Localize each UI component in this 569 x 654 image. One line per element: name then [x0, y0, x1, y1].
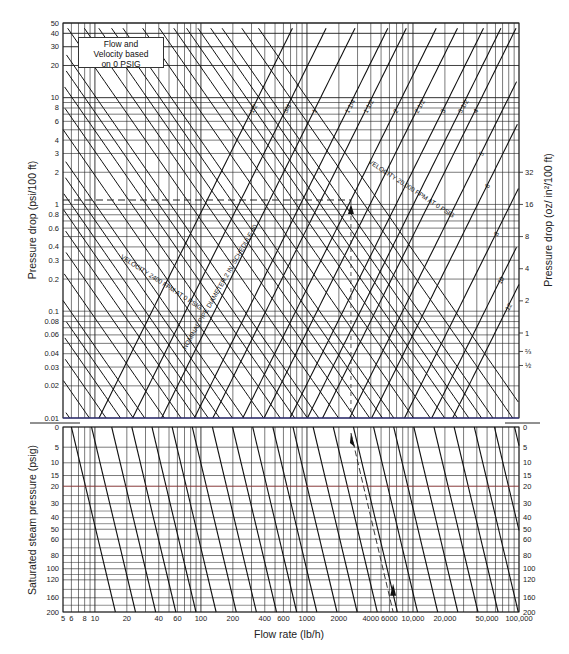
svg-text:40: 40 — [523, 513, 531, 522]
svg-text:10: 10 — [91, 614, 99, 623]
svg-text:2: 2 — [55, 168, 59, 177]
svg-text:20: 20 — [123, 614, 131, 623]
note-line-2: Velocity based — [79, 49, 163, 59]
svg-text:1: 1 — [55, 200, 59, 209]
svg-text:50: 50 — [523, 525, 531, 534]
svg-text:3 1/2: 3 1/2 — [456, 98, 469, 114]
svg-text:0.2: 0.2 — [49, 275, 59, 284]
svg-text:160: 160 — [46, 593, 59, 602]
svg-text:6000: 6000 — [381, 614, 398, 623]
svg-text:6: 6 — [55, 117, 59, 126]
svg-text:200: 200 — [227, 614, 240, 623]
svg-text:40: 40 — [155, 614, 163, 623]
svg-text:15: 15 — [51, 471, 59, 480]
svg-text:8: 8 — [83, 614, 87, 623]
svg-text:20: 20 — [51, 61, 59, 70]
svg-text:100,000: 100,000 — [505, 614, 532, 623]
svg-text:4000: 4000 — [362, 614, 379, 623]
svg-text:5: 5 — [55, 443, 59, 452]
svg-text:160: 160 — [523, 593, 536, 602]
steam-pipe-sizing-chart: 1/23/411 1/41 1/222 1/233 1/245681012 0.… — [0, 0, 569, 654]
y-axis-label-right: Pressure drop (oz/ in²/100 ft) — [542, 153, 554, 287]
svg-text:4: 4 — [55, 136, 59, 145]
svg-text:60: 60 — [523, 535, 531, 544]
svg-text:6: 6 — [69, 614, 73, 623]
svg-text:3: 3 — [55, 149, 59, 158]
basis-note-box: Flow and Velocity based on 0 PSIG — [78, 37, 164, 68]
y-axis-label-upper: Pressure drop (psi/100 ft) — [26, 161, 38, 279]
pipe-and-velocity-lines: 1/23/411 1/41 1/222 1/233 1/245681012 — [63, 28, 519, 418]
svg-text:6: 6 — [483, 182, 491, 189]
svg-text:⅔: ⅔ — [525, 347, 532, 356]
svg-text:1 1/2: 1 1/2 — [362, 98, 375, 114]
svg-text:10,000: 10,000 — [402, 614, 425, 623]
svg-text:60: 60 — [173, 614, 181, 623]
svg-text:60: 60 — [51, 535, 59, 544]
svg-text:50,000: 50,000 — [476, 614, 499, 623]
svg-text:2: 2 — [525, 296, 529, 305]
svg-text:50: 50 — [51, 19, 59, 28]
svg-text:0.4: 0.4 — [49, 242, 59, 251]
svg-text:2 1/2: 2 1/2 — [413, 98, 426, 114]
svg-text:40: 40 — [51, 513, 59, 522]
svg-text:100: 100 — [523, 564, 536, 573]
svg-text:200: 200 — [46, 608, 59, 617]
svg-text:0.04: 0.04 — [44, 349, 59, 358]
svg-text:40: 40 — [51, 29, 59, 38]
svg-text:600: 600 — [277, 614, 290, 623]
svg-text:0.3: 0.3 — [49, 256, 59, 265]
svg-text:20: 20 — [51, 482, 59, 491]
svg-text:0.01: 0.01 — [44, 414, 59, 423]
svg-text:0.1: 0.1 — [49, 307, 59, 316]
svg-text:4: 4 — [525, 264, 529, 273]
svg-text:1: 1 — [525, 329, 529, 338]
svg-text:400: 400 — [259, 614, 272, 623]
svg-text:10: 10 — [523, 458, 531, 467]
svg-text:20: 20 — [523, 482, 531, 491]
svg-text:5: 5 — [523, 443, 527, 452]
svg-text:32: 32 — [525, 168, 533, 177]
note-line-1: Flow and — [79, 39, 163, 49]
svg-text:10: 10 — [51, 458, 59, 467]
svg-text:0.08: 0.08 — [44, 317, 59, 326]
svg-text:50: 50 — [51, 525, 59, 534]
svg-text:30: 30 — [51, 42, 59, 51]
svg-text:20,000: 20,000 — [433, 614, 456, 623]
svg-text:0: 0 — [523, 423, 527, 432]
svg-text:5: 5 — [61, 614, 65, 623]
velocity-series-label-right: VELOCITY 20,000 FPM AT 0 PSIG — [367, 158, 456, 219]
note-line-3: on 0 PSIG — [79, 59, 163, 69]
svg-text:120: 120 — [46, 575, 59, 584]
lower-grid — [63, 427, 519, 612]
svg-text:0.02: 0.02 — [44, 381, 59, 390]
svg-text:0.06: 0.06 — [44, 330, 59, 339]
svg-text:0.03: 0.03 — [44, 363, 59, 372]
steam-pressure-correction-lines — [63, 427, 519, 612]
svg-text:5: 5 — [477, 150, 485, 157]
x-axis-label: Flow rate (lb/h) — [254, 628, 324, 640]
svg-text:2000: 2000 — [331, 614, 348, 623]
svg-text:8: 8 — [55, 103, 59, 112]
svg-text:0.8: 0.8 — [49, 210, 59, 219]
svg-text:16: 16 — [525, 200, 533, 209]
y-axis-label-lower: Saturated steam pressure (psig) — [26, 445, 38, 595]
svg-text:30: 30 — [523, 499, 531, 508]
svg-text:15: 15 — [523, 471, 531, 480]
svg-text:½: ½ — [525, 361, 532, 370]
svg-text:1000: 1000 — [299, 614, 316, 623]
svg-text:30: 30 — [51, 499, 59, 508]
svg-text:10: 10 — [496, 275, 506, 285]
svg-text:80: 80 — [51, 551, 59, 560]
svg-text:8: 8 — [492, 230, 500, 237]
svg-text:12: 12 — [504, 302, 514, 312]
svg-text:0.6: 0.6 — [49, 224, 59, 233]
svg-text:100: 100 — [46, 564, 59, 573]
svg-text:100: 100 — [195, 614, 208, 623]
svg-text:80: 80 — [523, 551, 531, 560]
svg-text:1 1/4: 1 1/4 — [343, 98, 356, 114]
svg-text:10: 10 — [51, 93, 59, 102]
svg-text:8: 8 — [525, 232, 529, 241]
svg-text:120: 120 — [523, 575, 536, 584]
svg-text:0: 0 — [55, 423, 59, 432]
